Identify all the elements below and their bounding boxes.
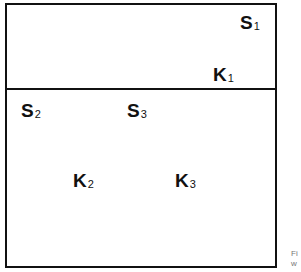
caption-line-1: Fi	[291, 249, 298, 259]
label-s3: S3	[127, 101, 147, 120]
region-divider	[5, 88, 277, 90]
diagram-frame	[5, 3, 277, 268]
label-s1: S1	[240, 13, 260, 32]
caption-fragment: Fi w	[291, 249, 298, 269]
label-k3: K3	[175, 171, 196, 190]
caption-line-2: w	[291, 259, 298, 269]
label-k2: K2	[73, 171, 94, 190]
label-k1: K1	[213, 65, 234, 84]
label-s2: S2	[21, 101, 41, 120]
